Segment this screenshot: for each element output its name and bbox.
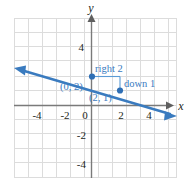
point-label-0-2: (0, 2) [60,81,83,93]
y-axis-label: y [87,1,94,15]
y-tick-label--4: -4 [77,158,87,170]
annotation-down-1: down 1 [124,78,155,89]
x-tick-label-4: 4 [146,109,152,121]
point-label-2-1: (2, 1) [89,92,112,104]
annotation-right-2: right 2 [95,63,123,74]
x-tick-label--4: -4 [32,109,42,121]
coordinate-plane-figure: -4 -2 0 2 4 4 -2 -4 y x right 2 down 1 (… [0,0,190,192]
y-tick-label--2: -2 [77,129,86,141]
graph-svg: -4 -2 0 2 4 4 -2 -4 y x right 2 down 1 (… [0,0,190,192]
y-tick-label-4: 4 [79,41,85,53]
x-tick-label--2: -2 [60,109,69,121]
x-tick-label-2: 2 [118,109,124,121]
x-tick-label-0: 0 [82,109,88,121]
slope-step-guides [92,77,120,91]
x-axis-label: x [177,99,184,113]
